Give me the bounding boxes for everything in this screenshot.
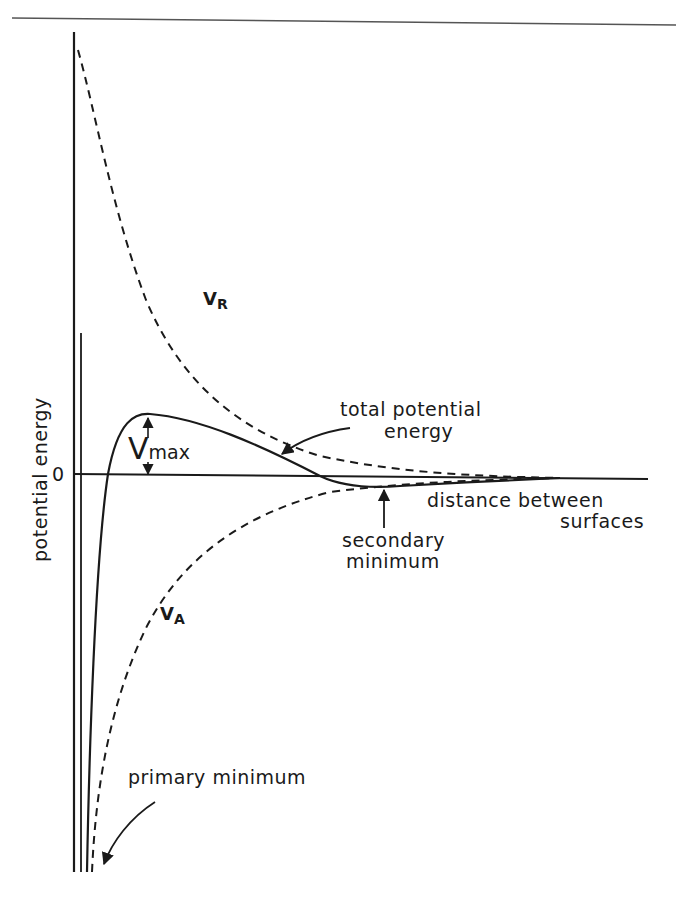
vmax-label: Vmax [128,431,190,466]
primary-minimum-label: primary minimum [128,766,306,788]
va-label: VA [160,603,185,627]
va-attractive-curve [92,478,560,872]
total-potential-curve [87,414,560,872]
secondary-minimum-label-line1: secondary [342,529,445,551]
primary-minimum-arrow [104,802,155,864]
y-axis-label: potential energy [29,397,51,562]
total-energy-label-line2: energy [384,420,453,442]
x-axis-zero-line [74,474,648,479]
x-axis-label-line2: surfaces [560,510,644,532]
secondary-minimum-label-line2: minimum [346,550,440,572]
dlvo-potential-energy-chart: potential energy 0 VR VA Vmax total pote… [0,0,676,921]
total-energy-label-line1: total potential [340,398,482,420]
vr-label: VR [203,288,228,312]
page-top-rule [12,18,676,25]
total-energy-pointer-arrow [282,428,350,454]
x-axis-label-line1: distance between [427,489,604,511]
zero-tick-label: 0 [52,463,64,485]
